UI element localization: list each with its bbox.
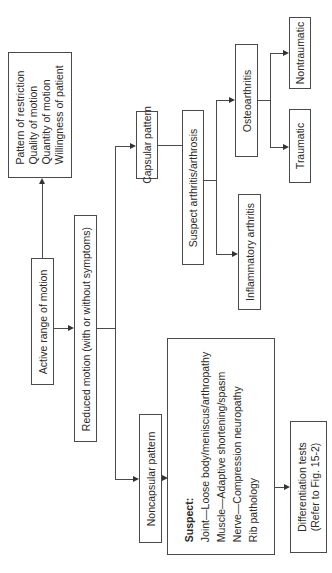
connector-line	[97, 328, 115, 329]
arrow-right-icon	[68, 325, 74, 331]
assessment-criteria-text: Pattern of restriction Quality of motion…	[14, 65, 66, 164]
criteria-line: Pattern of restriction	[14, 65, 27, 164]
connector-line	[115, 146, 116, 479]
inflammatory-arthritis-label: Inflammatory arthritis	[243, 203, 256, 301]
suspect-line: Rib pathology	[245, 351, 261, 541]
reduced-motion-box: Reduced motion (with or without symptoms…	[74, 215, 97, 442]
nontraumatic-label: Nontraumatic	[294, 22, 307, 84]
connector-line	[42, 184, 43, 258]
capsular-pattern-label: Capsular pattern	[141, 106, 154, 184]
assessment-criteria-box: Pattern of restriction Quality of motion…	[8, 52, 72, 178]
differentiation-tests-box: Differentiation tests (Refer to Fig. 15-…	[290, 421, 327, 553]
differentiation-line: (Refer to Fig. 15-2)	[309, 442, 322, 532]
suspect-line: Muscle—Adaptive shortening/spasm	[213, 351, 229, 541]
arrow-right-icon	[229, 97, 235, 103]
arrow-right-icon	[284, 484, 290, 490]
connector-line	[115, 146, 130, 147]
connector-line	[216, 254, 232, 255]
connector-line	[270, 147, 283, 148]
criteria-line: Quality of motion	[27, 65, 40, 164]
arrow-right-icon	[130, 143, 136, 149]
connector-line	[216, 100, 229, 101]
active-rom-label: Active range of motion	[36, 269, 49, 373]
arrow-right-icon	[283, 144, 289, 150]
connector-line	[258, 100, 270, 101]
noncapsular-pattern-label: Noncapsular pattern	[144, 431, 157, 526]
arrow-right-icon	[133, 476, 139, 482]
reduced-motion-label: Reduced motion (with or without symptoms…	[79, 226, 92, 430]
connector-line	[275, 487, 284, 488]
arrow-right-icon	[232, 251, 238, 257]
connector-line	[216, 100, 217, 254]
connector-line	[270, 53, 271, 147]
osteoarthritis-label: Osteoarthritis	[240, 69, 253, 131]
suspect-heading: Suspect:	[181, 351, 197, 541]
active-rom-box: Active range of motion	[31, 258, 54, 385]
criteria-line: Willingness of patient	[53, 65, 66, 164]
noncapsular-pattern-box: Noncapsular pattern	[139, 414, 162, 543]
differentiation-line: Differentiation tests	[296, 442, 309, 532]
traumatic-label: Traumatic	[294, 123, 307, 169]
connector-line	[54, 328, 68, 329]
connector-line	[115, 479, 133, 480]
criteria-line: Quantity of motion	[40, 65, 53, 164]
arrow-up-icon	[39, 178, 45, 184]
suspect-list-text: Suspect: Joint—Loose body/meniscus/arthr…	[181, 351, 261, 541]
nontraumatic-box: Nontraumatic	[289, 17, 311, 89]
osteoarthritis-box: Osteoarthritis	[235, 44, 258, 157]
connector-line	[158, 145, 182, 146]
connector-line	[204, 180, 216, 181]
suspect-arthritis-box: Suspect arthritis/arthrosis	[182, 110, 204, 265]
differentiation-tests-text: Differentiation tests (Refer to Fig. 15-…	[296, 442, 322, 532]
arrow-right-icon	[283, 50, 289, 56]
arrow-right-icon	[162, 475, 168, 481]
connector-line	[270, 53, 283, 54]
suspect-line: Joint—Loose body/meniscus/arthropathy	[197, 351, 213, 541]
capsular-pattern-box: Capsular pattern	[136, 111, 158, 179]
suspect-line: Nerve—Compression neuropathy	[229, 351, 245, 541]
traumatic-box: Traumatic	[289, 109, 311, 183]
inflammatory-arthritis-box: Inflammatory arthritis	[238, 194, 261, 310]
suspect-arthritis-label: Suspect arthritis/arthrosis	[187, 128, 200, 246]
suspect-list-box: Suspect: Joint—Loose body/meniscus/arthr…	[167, 338, 275, 555]
